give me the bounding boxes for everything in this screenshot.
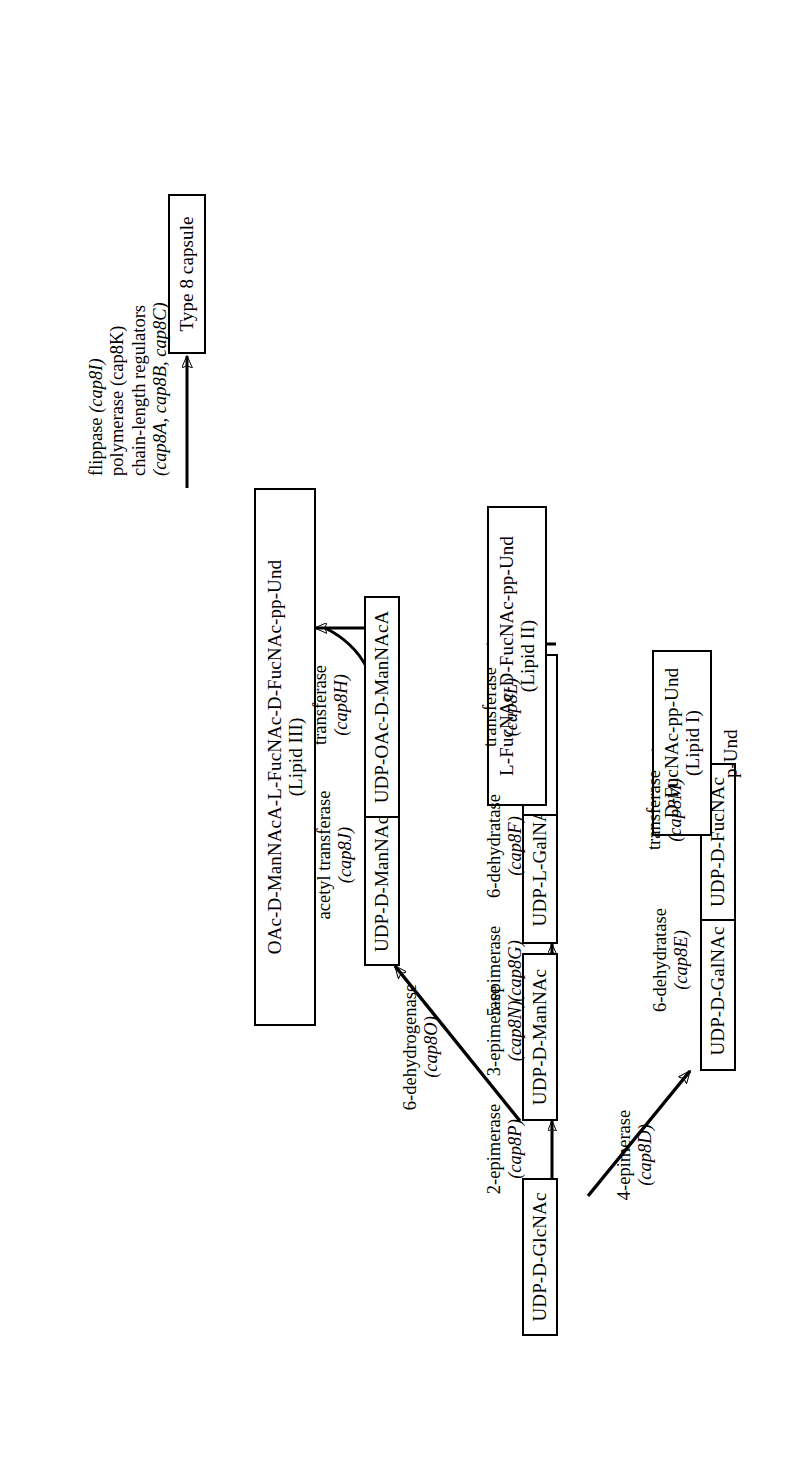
edge-label-6-dehydrogenase: 6-dehydrogenase (cap8O) <box>400 966 443 1128</box>
edge-label-4-epimerase: 4-epimerase (cap8D) <box>614 1092 657 1218</box>
node-sublabel: (Lipid III) <box>285 718 306 797</box>
node-udp-d-glcnac[interactable]: UDP-D-GlcNAc <box>522 1178 558 1336</box>
edge-label-transferase-h: transferase (cap8H) <box>310 644 353 766</box>
node-udp-d-mannac[interactable]: UDP-D-ManNAc <box>522 953 558 1121</box>
enzyme-name: transferase <box>644 770 664 850</box>
node-label: UDP-D-GlcNAc <box>529 1193 550 1322</box>
node-udp-oac-d-mannaca[interactable]: UDP-OAc-D-ManNAcA <box>364 596 400 818</box>
flippase-gene: (cap8I) <box>86 358 106 412</box>
enzyme-name: transferase <box>310 665 330 745</box>
pathway-diagram: UDP-D-GlcNAc UDP-D-ManNAc UDP-L-GalNAc U… <box>0 0 810 1466</box>
flippase-text: flippase <box>86 413 106 476</box>
edge-label-6-dehydratase-e: 6-dehydratase (cap8E) <box>650 894 693 1026</box>
node-type-8-capsule[interactable]: Type 8 capsule <box>168 194 206 354</box>
enzyme-name: 4-epimerase <box>614 1110 634 1200</box>
node-lipid-iii[interactable]: OAc-D-ManNAcA-L-FucNAc-D-FucNAc-pp-Und (… <box>254 488 316 1026</box>
edge-label-transferase-l: transferase (cap8L) <box>480 648 523 766</box>
final-step-label: flippase (cap8I) polymerase (cap8K) chai… <box>86 176 172 476</box>
node-udp-d-galnac[interactable]: UDP-D-GalNAc <box>700 911 736 1071</box>
node-label: UDP-D-GalNAc <box>707 927 728 1056</box>
polymerase-text: polymerase (cap8K) <box>107 325 127 476</box>
chain-length-regulators-genes: (cap8A, cap8B, cap8C) <box>150 302 170 476</box>
gene-name: (cap8P) <box>505 1119 525 1179</box>
gene-name: (cap8E) <box>671 930 691 990</box>
node-label: UDP-D-ManNAcA <box>371 802 392 952</box>
chain-length-regulators-text: chain-length regulators <box>129 305 149 476</box>
enzyme-name: 6-dehydratase <box>650 908 670 1012</box>
node-label: UDP-OAc-D-ManNAcA <box>371 611 392 804</box>
gene-name: (cap8F) <box>505 816 525 876</box>
node-label: UDP-D-ManNAc <box>529 969 550 1105</box>
node-label: UDP-L-GalNAc <box>529 800 550 927</box>
enzyme-name: 5-epimerase <box>484 926 504 1016</box>
edge-label-5-epimerase: 5-epimerase (cap8G) <box>484 908 527 1034</box>
edge-label-2-epimerase: 2-epimerase (cap8P) <box>484 1086 527 1212</box>
node-label: Type 8 capsule <box>176 216 197 331</box>
enzyme-name: acetyl transferase <box>314 791 334 920</box>
gene-name: (cap8G) <box>505 940 525 1002</box>
edge-label-acetyl-transferase: acetyl transferase (cap8J) <box>314 772 357 938</box>
precursor-p-und: p-Und <box>720 729 742 778</box>
precursor-label: p-Und <box>720 729 741 778</box>
gene-name: (cap8M) <box>665 778 685 842</box>
enzyme-name: 6-dehydratase <box>484 794 504 898</box>
edge-label-6-dehydratase-f: 6-dehydratase (cap8F) <box>484 782 527 910</box>
gene-name: (cap8O) <box>421 1016 441 1078</box>
enzyme-name: 2-epimerase <box>484 1104 504 1194</box>
enzyme-name: transferase <box>480 667 500 747</box>
gene-name: (cap8J) <box>335 827 355 884</box>
gene-name: (cap8H) <box>331 674 351 736</box>
gene-name: (cap8D) <box>635 1124 655 1186</box>
gene-name: (cap8L) <box>501 678 521 737</box>
edge-label-transferase-m: transferase (cap8M) <box>644 750 687 870</box>
node-label: OAc-D-ManNAcA-L-FucNAc-D-FucNAc-pp-Und <box>264 560 285 954</box>
enzyme-name: 6-dehydrogenase <box>400 984 420 1110</box>
